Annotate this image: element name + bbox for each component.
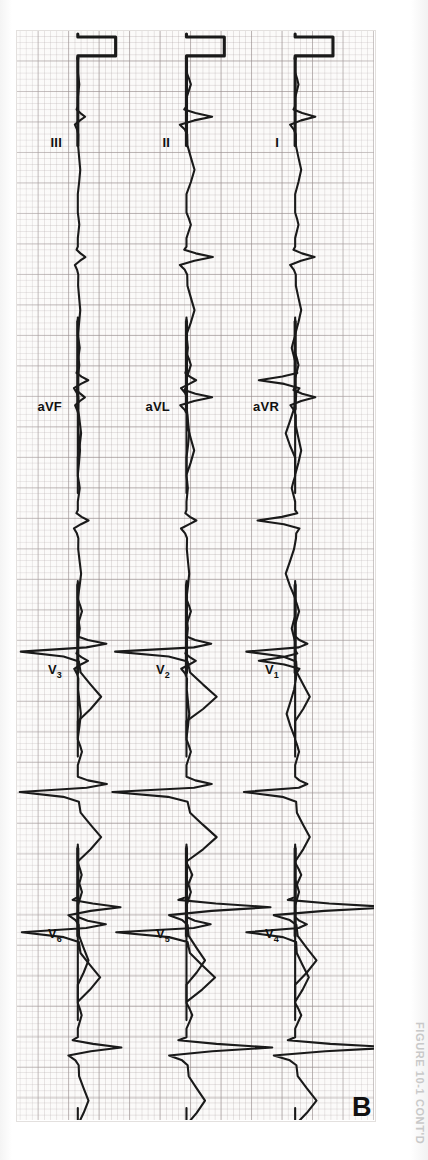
- ecg-trace-avr: [258, 320, 300, 757]
- figure-running-head-text: FIGURE 10-1 CONT'D: [414, 1022, 426, 1144]
- lead-label-v5: V5: [156, 926, 170, 944]
- lead-label-v4: V4: [265, 926, 279, 944]
- figure-running-head: FIGURE 10-1 CONT'D: [406, 1022, 426, 1158]
- lead-label-avr: aVR: [253, 399, 279, 414]
- ecg-strip-container: IaVRV1V4IIaVLV2V5IIIaVFV3V6: [16, 30, 374, 1120]
- ecg-trace-v3: [20, 583, 107, 1020]
- ecg-trace-avl: [181, 320, 196, 757]
- calibration-pulse: [186, 34, 224, 59]
- ecg-trace-ii: [180, 56, 213, 493]
- calibration-pulse: [295, 34, 333, 59]
- lead-label-avf: aVF: [37, 399, 61, 414]
- lead-label-v6: V6: [48, 926, 62, 944]
- calibration-pulse: [78, 34, 116, 59]
- figure-page: IaVRV1V4IIaVLV2V5IIIaVFV3V6 B FIGURE 10-…: [0, 0, 428, 1160]
- lead-label-v3: V3: [48, 662, 62, 680]
- lead-label-iii: III: [50, 135, 61, 150]
- ecg-trace-avf: [74, 320, 89, 757]
- ecg-trace-v4: [274, 847, 374, 1121]
- lead-label-v2: V2: [156, 662, 170, 680]
- ecg-trace-v5: [169, 847, 272, 1121]
- ecg-strip: IaVRV1V4IIaVLV2V5IIIaVFV3V6: [16, 30, 374, 1120]
- lead-label-i: I: [275, 135, 279, 150]
- lead-label-avl: aVL: [146, 399, 170, 414]
- ecg-traces-svg: [16, 30, 374, 1120]
- lead-label-ii: II: [163, 135, 171, 150]
- ecg-trace-v1: [244, 583, 310, 1020]
- lead-label-v1: V1: [265, 662, 279, 680]
- ecg-trace-layer: [16, 30, 374, 1120]
- panel-letter: B: [352, 1092, 372, 1123]
